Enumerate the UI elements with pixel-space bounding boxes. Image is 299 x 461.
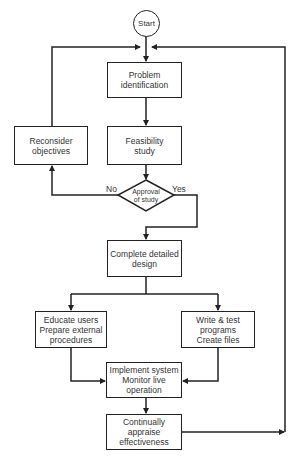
node-label: Continually appraise effectiveness xyxy=(119,417,168,447)
node-educate-users: Educate users Prepare external procedure… xyxy=(35,311,107,348)
edge-write-implement xyxy=(183,348,218,381)
decision-label-approval: Approval of study xyxy=(124,188,168,204)
start-label: Start xyxy=(138,19,155,29)
node-label: Reconsider objectives xyxy=(30,136,73,156)
node-reconsider-objectives: Reconsider objectives xyxy=(14,126,88,165)
edge-educate-implement xyxy=(71,348,105,381)
node-label: Implement system Monitor live operation xyxy=(110,365,179,395)
node-appraise-effectiveness: Continually appraise effectiveness xyxy=(106,414,182,450)
node-label: Write & test programs Create files xyxy=(196,315,240,345)
node-implement-system: Implement system Monitor live operation xyxy=(106,362,182,398)
node-feasibility-study: Feasibility study xyxy=(107,126,182,165)
node-complete-design: Complete detailed design xyxy=(107,240,182,277)
node-label: Problem identification xyxy=(121,70,168,90)
node-label: Feasibility study xyxy=(126,136,164,156)
node-label: Complete detailed design xyxy=(110,249,179,269)
node-problem-identification: Problem identification xyxy=(107,62,182,98)
edge-label-yes: Yes xyxy=(172,184,186,194)
node-label: Educate users Prepare external procedure… xyxy=(40,315,103,345)
start-node: Start xyxy=(133,10,160,37)
edge-label-no: No xyxy=(106,184,117,194)
node-write-test-programs: Write & test programs Create files xyxy=(181,311,255,348)
